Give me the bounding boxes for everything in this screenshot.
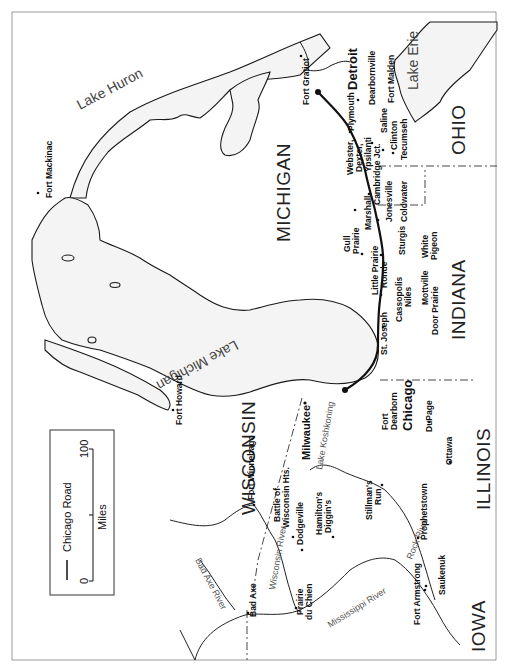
- battle-wisconsin-hts-label-2: Wisconsin Hts.: [281, 467, 291, 528]
- wisconsin-river-label: Wisconsin River: [267, 525, 288, 590]
- tecumseh-label: Tecumseh: [399, 119, 409, 160]
- town-dot: [301, 549, 304, 552]
- lake-huron-label: Lake Huron: [74, 65, 145, 113]
- milwaukee-label: Milwaukee: [300, 405, 312, 460]
- fort-dearborn-label-2: Dearborn: [389, 392, 399, 430]
- town-dot: [332, 536, 335, 539]
- island: [88, 337, 96, 343]
- saukenuk-label: Saukenuk: [437, 555, 447, 595]
- town-dot: [361, 253, 364, 256]
- lake-koshkonong-label: Lake Koshkoning: [314, 401, 336, 471]
- iowa-label: IOWA: [468, 600, 489, 652]
- chicago-dot: [342, 387, 348, 393]
- prairie-du-chien-label-2: du Chien: [304, 584, 314, 620]
- sturgis-label: Sturgis: [397, 225, 407, 255]
- ohio-label: OHIO: [448, 104, 469, 155]
- chicago-road-map: Lake Huron Lake Michigan Lake Erie Lake …: [0, 0, 510, 671]
- ottawa-label: Ottawa: [444, 436, 454, 465]
- upper-mississippi: [180, 630, 195, 660]
- cambridge-jct-label: Cambridge Jct.: [372, 144, 382, 205]
- town-dot: [354, 209, 357, 212]
- scale-min-label: 0: [78, 578, 90, 584]
- chicago-label: Chicago: [400, 380, 415, 431]
- town-dot: [425, 585, 428, 588]
- town-dot: [292, 536, 295, 539]
- illinois-label: ILLINOIS: [473, 428, 494, 510]
- dodgeville-label: Dodgeville: [295, 502, 305, 545]
- island: [110, 283, 120, 288]
- scale-max-label: 100: [78, 440, 90, 458]
- michigan-label: MICHIGAN: [273, 143, 294, 242]
- town-dot: [37, 192, 40, 195]
- clinton-label: Clinton: [389, 121, 399, 150]
- mississippi-river-label: Mississippi River: [326, 586, 388, 630]
- fort-gratiot-label: Fort Gratiot: [301, 58, 311, 105]
- saline-label: Saline: [379, 108, 389, 133]
- detroit-dot: [315, 89, 321, 95]
- plymouth-label: Plymouth: [346, 92, 356, 131]
- bad-axe-river-label: Bad Axe River: [193, 556, 229, 611]
- bad-axe-label: Bad Axe: [248, 583, 258, 617]
- lake-erie-label: Lake Erie: [405, 31, 421, 90]
- fort-malden-label: Fort Malden: [386, 55, 396, 103]
- stillmans-run-label-2: Run: [373, 488, 383, 505]
- little-prairie-ronde-label-2: Ronde: [379, 261, 389, 288]
- hamiltons-diggins-label-2: Diggin's: [323, 500, 333, 533]
- detroit-label: Detroit: [345, 47, 360, 90]
- town-dot: [381, 484, 384, 487]
- niles-label: Niles: [403, 286, 413, 307]
- map-legend: Chicago Road 0 100 Miles: [50, 430, 114, 595]
- fort-armstrong-label: Fort Armstrong: [412, 563, 422, 625]
- door-prairie-label: Door Prairie: [430, 286, 440, 335]
- milwaukee-dot: [303, 401, 306, 404]
- st-joseph-label: St. Joseph: [379, 312, 389, 355]
- gull-prairie-label-2: Prairie: [351, 227, 361, 254]
- legend-road-label: Chicago Road: [61, 482, 73, 552]
- prophetstown-label: Prophetstown: [419, 483, 429, 540]
- jonesville-label: Jonesville: [384, 181, 394, 222]
- town-dot: [368, 193, 371, 196]
- coldwater-label: Coldwater: [399, 180, 409, 222]
- town-dot: [300, 55, 303, 58]
- town-dot: [382, 149, 385, 152]
- town-dot: [380, 254, 383, 257]
- dupage-label: DuPage: [424, 400, 434, 432]
- town-dot: [357, 99, 360, 102]
- town-dot: [392, 152, 395, 155]
- scale-units-label: Miles: [96, 504, 108, 530]
- island: [62, 255, 74, 261]
- town-dot: [377, 219, 380, 222]
- town-dot: [424, 589, 427, 592]
- fort-howard-label: Fort Howard: [174, 375, 184, 425]
- fort-winnebago-label: Fort Winnebago: [246, 435, 256, 500]
- indiana-label: INDIANA: [448, 259, 469, 340]
- town-dot: [380, 294, 383, 297]
- dearbornville-label: Dearbornville: [367, 50, 377, 105]
- white-pigeon-label-2: Pigeon: [429, 232, 439, 260]
- mottville-label: Mottville: [420, 270, 430, 305]
- marshall-label: Marshall: [363, 196, 373, 231]
- fort-mackinac-label: Fort Mackinac: [44, 141, 54, 198]
